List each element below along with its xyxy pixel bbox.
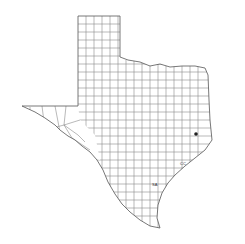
location-marker <box>194 132 198 136</box>
map-label: CC <box>180 161 186 166</box>
county-lines <box>0 0 245 244</box>
map-label: SA <box>152 182 158 187</box>
texas-county-map: SA CC <box>0 0 245 244</box>
